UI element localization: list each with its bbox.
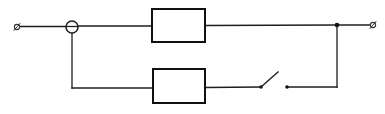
wire-lower-to-switch — [205, 87, 261, 88]
circuit-diagram — [0, 0, 385, 114]
left-terminal-icon — [14, 24, 20, 31]
junction-node-icon — [335, 23, 340, 28]
switch-contact-icon — [285, 85, 289, 89]
right-terminal-icon — [370, 22, 376, 29]
wire-upper-to-node — [205, 25, 337, 26]
open-switch-icon — [259, 72, 289, 89]
circuit-svg — [0, 0, 385, 114]
upper-component-box — [152, 9, 205, 42]
lower-component-box — [153, 69, 205, 103]
junction-circle-icon — [66, 21, 78, 33]
switch-blade — [261, 72, 278, 87]
